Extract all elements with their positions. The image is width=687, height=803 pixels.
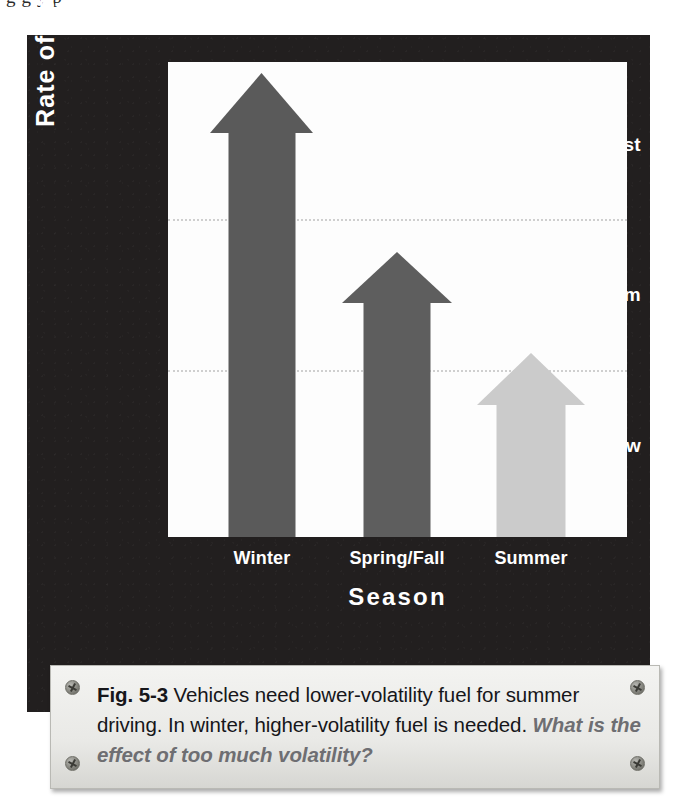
screw-icon [65,680,80,695]
x-tick-label-winter: Winter [233,548,290,569]
screw-icon [65,756,80,771]
plot-area [168,62,627,537]
bar-arrow-spring-fall [342,252,452,537]
y-axis-title: Rate of Vaporization [31,0,60,127]
arrow-up-icon [210,73,313,133]
arrow-shaft-winter [228,127,295,537]
figure-caption-plaque: Fig. 5-3 Vehicles need lower-volatility … [50,665,660,789]
x-tick-label-summer: Summer [494,548,567,569]
figure-number: Fig. 5-3 [97,683,168,706]
figure-dark-panel: Rate of Vaporization Fast Medium Slow [27,35,650,712]
x-tick-label-spring-fall: Spring/Fall [349,548,444,569]
bar-arrow-winter [210,73,313,537]
arrow-head-winter [210,73,313,133]
arrow-shaft-summer [497,397,566,537]
figure-caption-text: Fig. 5-3 Vehicles need lower-volatility … [97,680,645,770]
figure-page: g g y p Rate of Vaporization Fast Medium… [0,0,687,803]
bar-arrow-summer [477,353,585,537]
clipped-text-above-figure: g g y p [0,0,687,8]
arrow-shaft-spring-fall [364,295,431,537]
x-axis-title: Season [168,583,627,611]
figure-caption-body: Vehicles need lower-volatility fuel for … [97,683,579,736]
